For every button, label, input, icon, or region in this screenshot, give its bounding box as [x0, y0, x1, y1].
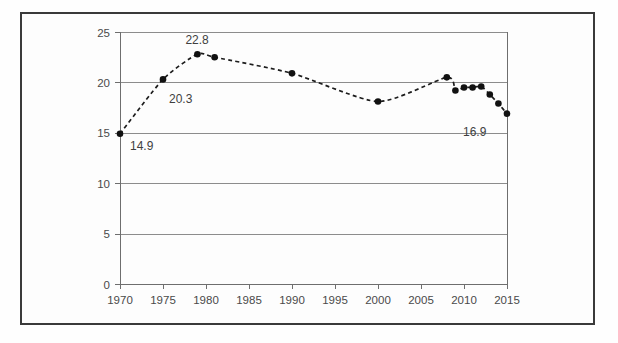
axes-group [120, 32, 508, 285]
data-value-label-22-8: 22.8 [185, 33, 209, 47]
data-point-marker [478, 83, 485, 90]
line-chart-plot: 0510152025 19701975198019851990199520002… [22, 14, 593, 323]
y-tick-label-0: 0 [104, 279, 110, 291]
data-value-label-16-9: 16.9 [463, 125, 487, 139]
data-point-marker [487, 91, 494, 98]
y-tick-label-25: 25 [97, 27, 110, 39]
data-point-marker [194, 51, 201, 58]
x-tick-label-2010: 2010 [451, 294, 477, 306]
x-tick-labels-group: 1970197519801985199019952000200520102015 [107, 294, 520, 306]
data-point-marker [495, 100, 502, 107]
x-tick-label-1975: 1975 [150, 294, 176, 306]
y-tick-labels-group: 0510152025 [97, 27, 110, 291]
x-tick-label-2005: 2005 [408, 294, 434, 306]
x-tick-label-1995: 1995 [322, 294, 348, 306]
data-value-label-14-9: 14.9 [130, 139, 154, 153]
x-tick-label-1980: 1980 [193, 294, 219, 306]
data-point-marker [160, 76, 167, 83]
gridlines-group [120, 33, 507, 235]
data-point-marker [289, 70, 296, 77]
y-tick-label-20: 20 [97, 77, 110, 89]
data-point-marker [117, 131, 124, 138]
data-point-marker [211, 54, 218, 61]
data-point-marker [461, 84, 468, 91]
chart-figure: 0510152025 19701975198019851990199520002… [0, 0, 618, 343]
data-point-marker [444, 74, 451, 81]
x-tick-label-1985: 1985 [236, 294, 262, 306]
x-tick-label-2015: 2015 [494, 294, 520, 306]
data-point-marker [469, 84, 476, 91]
x-tick-label-1990: 1990 [279, 294, 305, 306]
y-tick-label-10: 10 [97, 178, 110, 190]
data-value-label-20-3: 20.3 [169, 92, 193, 106]
data-point-marker [452, 87, 459, 94]
data-point-marker [504, 110, 511, 117]
data-point-marker [375, 98, 382, 105]
y-tick-label-15: 15 [97, 127, 110, 139]
x-tick-label-2000: 2000 [365, 294, 391, 306]
x-tick-label-1970: 1970 [107, 294, 133, 306]
data-value-annotations-group: 14.920.322.816.9 [130, 33, 487, 153]
chart-outer-frame: 0510152025 19701975198019851990199520002… [20, 12, 595, 325]
y-tick-label-5: 5 [104, 228, 110, 240]
